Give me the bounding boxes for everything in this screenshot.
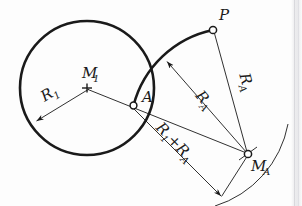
label-point-a: A — [140, 88, 153, 106]
label-sum-radius: R 1 + R A — [150, 118, 198, 167]
node-point-p — [209, 26, 216, 33]
label-center-m1: M 1 — [81, 64, 99, 84]
label-radius-ra-point: R A — [233, 70, 258, 94]
center-marker-m1 — [82, 84, 92, 93]
diagram-canvas: M 1 R 1 A P M A R A R A R 1 — [0, 0, 302, 206]
label-center-ma: M A — [250, 157, 270, 177]
node-point-a — [130, 102, 137, 109]
label-point-p: P — [218, 6, 230, 24]
dimension-closing-leg — [222, 155, 249, 197]
geometry-drawing: M 1 R 1 A P M A R A R A R 1 — [0, 0, 302, 206]
label-center-ma-sub: A — [262, 166, 270, 177]
label-radius-ra-arc: R A — [189, 86, 217, 114]
label-center-m1-sub: 1 — [93, 73, 99, 84]
label-radius-r1: R 1 — [37, 81, 63, 108]
